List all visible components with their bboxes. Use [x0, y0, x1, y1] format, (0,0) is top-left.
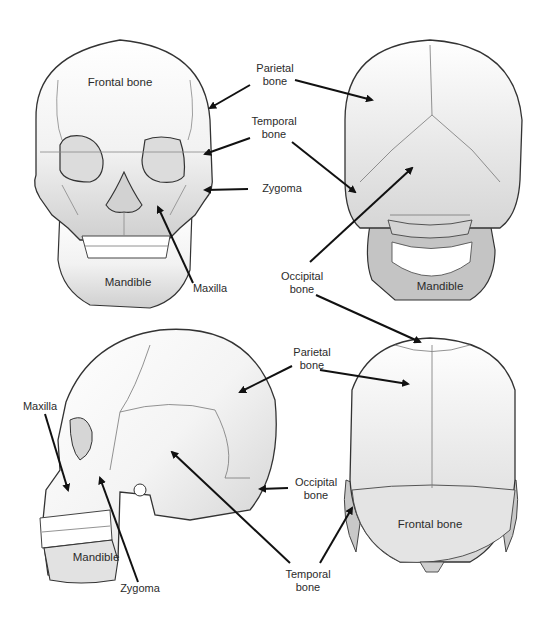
front-frontal-bone-label: Frontal bone	[60, 76, 180, 89]
skull-diagram: Frontal bone Mandible Maxilla Mandible M…	[0, 0, 548, 624]
back-skull	[345, 40, 522, 300]
side-skull	[40, 329, 276, 583]
side-zygoma-label: Zygoma	[110, 582, 170, 595]
callout-parietal-top: Parietal bone	[243, 62, 307, 88]
callout-zygoma-top: Zygoma	[250, 182, 314, 195]
callout-parietal-bottom: Parietal bone	[280, 346, 344, 372]
side-maxilla-label: Maxilla	[10, 400, 70, 413]
back-mandible-label: Mandible	[400, 280, 480, 293]
callout-temporal-top: Temporal bone	[242, 115, 306, 141]
callout-occipital-mid: Occipital bone	[270, 270, 334, 296]
front-maxilla-label: Maxilla	[180, 282, 240, 295]
top-frontal-bone-label: Frontal bone	[380, 518, 480, 531]
callout-occipital-bottom: Occipital bone	[284, 476, 348, 502]
callout-temporal-bottom: Temporal bone	[276, 568, 340, 594]
top-skull	[344, 338, 517, 572]
front-mandible-label: Mandible	[88, 276, 168, 289]
side-mandible-label: Mandible	[56, 551, 136, 564]
